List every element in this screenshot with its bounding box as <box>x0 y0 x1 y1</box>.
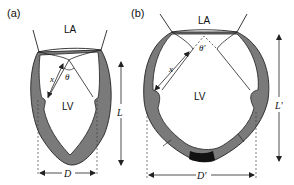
panel-a-lv-label: LV <box>62 101 74 112</box>
panel-a-L-label: L <box>116 107 123 118</box>
panel-a-x-label: x <box>49 74 54 84</box>
panel-b-L-prime-label: L' <box>274 100 284 111</box>
heart-diagram: (a) LA θ x LV L D (b) <box>0 0 294 185</box>
panel-b-x-label: x <box>168 64 173 74</box>
panel-a-la-label: LA <box>64 24 77 35</box>
panel-b-label: (b) <box>131 7 144 19</box>
panel-a-theta-label: θ <box>65 72 70 82</box>
panel-a-label: (a) <box>7 7 20 19</box>
panel-a: (a) LA θ x LV L D <box>7 7 123 179</box>
panel-b-D-prime-label: D' <box>196 170 207 181</box>
panel-a-D-label: D <box>63 168 72 179</box>
panel-b-theta-label: θ' <box>199 43 206 53</box>
panel-b: (b) LA θ' x LV L' D' <box>131 7 284 181</box>
panel-b-la-label: LA <box>198 15 211 26</box>
panel-b-lv-label: LV <box>194 91 206 102</box>
